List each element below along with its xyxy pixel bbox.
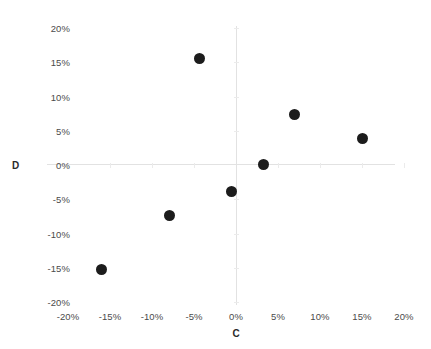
x-tick-mark [362, 163, 363, 168]
x-tick-label: 5% [271, 311, 285, 322]
x-tick-label: 10% [310, 311, 329, 322]
y-tick-mark [234, 302, 239, 303]
y-tick-label: 5% [26, 125, 70, 136]
y-tick-label: -5% [26, 194, 70, 205]
y-tick-label: 10% [26, 91, 70, 102]
y-tick-mark [234, 97, 239, 98]
data-point [96, 264, 107, 275]
y-tick-mark [234, 131, 239, 132]
y-tick-label: -10% [26, 228, 70, 239]
x-tick-label: -5% [185, 311, 202, 322]
x-tick-mark [278, 163, 279, 168]
x-tick-label: 20% [394, 311, 413, 322]
x-tick-label: -15% [99, 311, 122, 322]
data-point [194, 53, 205, 64]
x-tick-mark [404, 163, 405, 168]
y-tick-mark [234, 28, 239, 29]
scatter-chart: 20%15%10%5%0%-5%-10%-15%-20% -20%-15%-10… [0, 0, 431, 349]
data-point [258, 159, 269, 170]
x-tick-label: -20% [57, 311, 80, 322]
x-tick-mark [110, 163, 111, 168]
data-point [357, 133, 368, 144]
x-tick-label: 0% [229, 311, 243, 322]
y-axis-line [236, 26, 237, 305]
x-axis-title: C [232, 328, 239, 339]
x-tick-mark [320, 163, 321, 168]
x-tick-label: 15% [352, 311, 371, 322]
y-tick-label: 0% [26, 160, 70, 171]
y-tick-mark [234, 62, 239, 63]
y-tick-mark [234, 234, 239, 235]
y-tick-label: 20% [26, 23, 70, 34]
y-tick-label: -20% [26, 297, 70, 308]
x-tick-mark [194, 163, 195, 168]
x-tick-mark [152, 163, 153, 168]
plot-area: 20%15%10%5%0%-5%-10%-15%-20% -20%-15%-10… [0, 0, 431, 349]
data-point [164, 210, 175, 221]
x-tick-label: -10% [141, 311, 164, 322]
y-tick-label: -15% [26, 262, 70, 273]
data-point [289, 109, 300, 120]
y-tick-mark [234, 268, 239, 269]
x-axis-line [47, 164, 395, 165]
y-axis-title: D [12, 160, 19, 171]
y-tick-label: 15% [26, 57, 70, 68]
y-tick-mark [234, 199, 239, 200]
